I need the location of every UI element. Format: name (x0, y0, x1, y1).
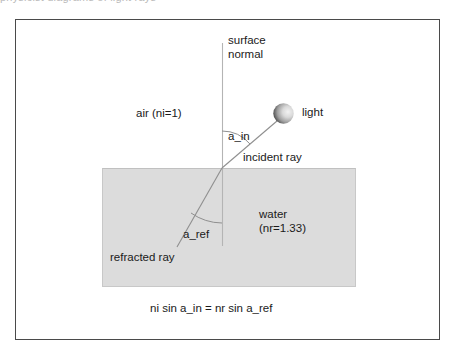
label-angle-incidence: a_in (228, 129, 250, 143)
label-snells-law-equation: ni sin a_in = nr sin a_ref (150, 301, 272, 315)
label-light-source: light (302, 105, 323, 119)
water-region (103, 169, 356, 287)
label-refracted-ray: refracted ray (110, 250, 175, 264)
label-air-medium: air (ni=1) (136, 106, 182, 120)
label-incident-ray: incident ray (243, 150, 302, 164)
label-water-medium: water (nr=1.33) (259, 207, 306, 235)
light-source-sphere (273, 103, 293, 123)
figure-canvas: physicist diagrams of light rays (0, 0, 456, 361)
label-angle-refraction: a_ref (183, 227, 209, 241)
label-surface-normal: surface normal (228, 33, 266, 61)
